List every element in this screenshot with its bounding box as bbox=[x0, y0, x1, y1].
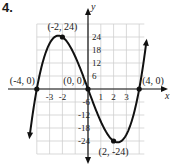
svg-text:-2: -2 bbox=[59, 92, 67, 102]
cubic-function-graph: xy -3-21232418126-6-12-18-24 (-2, 24)(2,… bbox=[0, 0, 173, 165]
svg-text:2: 2 bbox=[111, 92, 116, 102]
svg-text:(4, 0): (4, 0) bbox=[142, 75, 164, 87]
svg-text:x: x bbox=[164, 90, 170, 101]
svg-text:(-2, 24): (-2, 24) bbox=[47, 21, 77, 33]
svg-text:12: 12 bbox=[92, 58, 101, 68]
svg-text:-24: -24 bbox=[78, 136, 90, 146]
svg-text:-6: -6 bbox=[83, 97, 91, 107]
svg-text:(2, -24): (2, -24) bbox=[99, 146, 129, 158]
svg-text:1: 1 bbox=[99, 92, 104, 102]
svg-text:-3: -3 bbox=[46, 92, 54, 102]
svg-text:24: 24 bbox=[92, 32, 102, 42]
svg-text:(-4, 0): (-4, 0) bbox=[10, 75, 35, 87]
svg-text:-18: -18 bbox=[78, 123, 90, 133]
svg-text:18: 18 bbox=[92, 45, 102, 55]
svg-text:y: y bbox=[90, 1, 96, 12]
svg-text:3: 3 bbox=[124, 92, 129, 102]
svg-text:6: 6 bbox=[92, 71, 97, 81]
svg-text:(0, 0): (0, 0) bbox=[63, 75, 85, 87]
svg-text:-12: -12 bbox=[78, 110, 90, 120]
